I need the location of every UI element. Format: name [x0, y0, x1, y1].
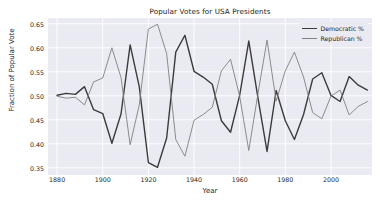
x-tick-label: 1920	[140, 176, 156, 183]
chart-title: Popular Votes for USA Presidents	[48, 7, 372, 16]
legend-swatch-republican	[302, 38, 317, 39]
x-tick-label: 1940	[186, 176, 202, 183]
x-tick-label: 2000	[323, 176, 339, 183]
legend-swatch-democratic	[302, 28, 317, 29]
x-tick-label: 1980	[277, 176, 293, 183]
series-line-republican	[57, 24, 367, 156]
x-tick-label: 1960	[232, 176, 248, 183]
y-tick-label: 0.50	[2, 92, 44, 99]
y-tick-label: 0.55	[2, 68, 44, 75]
y-axis-ticks: 0.350.400.450.500.550.600.65	[0, 18, 44, 175]
plot-area: Democratic % Republican %	[48, 18, 372, 175]
x-tick-label: 1880	[49, 176, 65, 183]
x-tick-label: 1900	[95, 176, 111, 183]
y-tick-label: 0.45	[2, 116, 44, 123]
legend-label-democratic: Democratic %	[320, 25, 364, 32]
y-tick-label: 0.65	[2, 20, 44, 27]
chart-figure: Popular Votes for USA Presidents Fractio…	[0, 0, 383, 217]
legend-item-democratic: Democratic %	[302, 24, 364, 32]
legend-item-republican: Republican %	[302, 34, 364, 42]
series-line-democratic	[57, 35, 367, 167]
chart-legend: Democratic % Republican %	[299, 22, 368, 44]
y-tick-label: 0.60	[2, 44, 44, 51]
legend-label-republican: Republican %	[320, 35, 362, 42]
y-tick-label: 0.40	[2, 140, 44, 147]
y-tick-label: 0.35	[2, 164, 44, 171]
x-axis-label: Year	[48, 187, 372, 195]
